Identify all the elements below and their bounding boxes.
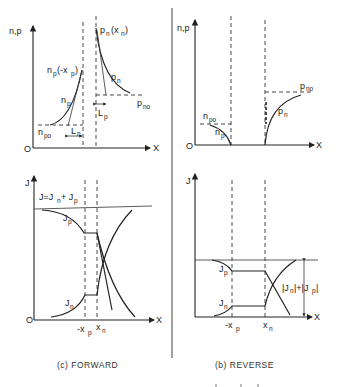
- reverse-current-plot: J X J p J n |J n |+|J p | -x p x n: [186, 174, 320, 333]
- svg-text:n: n: [284, 111, 288, 118]
- svg-text:+ J: + J: [61, 192, 73, 202]
- svg-text:x: x: [96, 322, 101, 332]
- label-npo: n po: [203, 111, 217, 124]
- svg-text:p: p: [100, 25, 105, 35]
- svg-text:n: n: [117, 77, 121, 84]
- label-pn-xn: p n (x n ): [100, 25, 128, 37]
- svg-text:): ): [75, 65, 78, 75]
- Jp-curve: [42, 210, 112, 310]
- y-axis-label: n,p: [177, 23, 190, 33]
- svg-text:-x: -x: [225, 320, 233, 330]
- svg-text:p: p: [88, 329, 92, 337]
- svg-text:n: n: [47, 65, 52, 75]
- svg-text:J: J: [219, 264, 224, 274]
- svg-text:no: no: [306, 85, 314, 92]
- origin-label: O: [26, 315, 33, 325]
- svg-text:p: p: [137, 98, 142, 108]
- svg-text:p: p: [278, 106, 283, 116]
- svg-text:-x: -x: [77, 324, 85, 334]
- tick-mxp: -x p: [225, 320, 240, 333]
- reverse-carrier-plot: n,p X O n po n p p no p n: [177, 16, 322, 151]
- svg-text:J=J: J=J: [39, 192, 53, 202]
- svg-text:): ): [125, 25, 128, 35]
- label-pno: p no: [137, 98, 151, 110]
- svg-text:(-x: (-x: [57, 65, 68, 75]
- forward-current-plot: J X O J=J n + J p J p J n -x p: [25, 176, 162, 337]
- svg-text:n: n: [106, 30, 110, 37]
- svg-text:p: p: [236, 325, 240, 333]
- svg-text:J: J: [63, 213, 68, 223]
- x-axis-label: X: [314, 312, 320, 322]
- svg-text:|: |: [316, 283, 318, 293]
- svg-text:po: po: [44, 132, 52, 140]
- svg-text:po: po: [209, 116, 217, 124]
- svg-text:n: n: [203, 111, 208, 121]
- svg-text:x: x: [263, 320, 268, 330]
- total-current-line: [34, 206, 152, 209]
- x-axis-label: X: [156, 315, 162, 325]
- label-pno: p no: [300, 81, 314, 92]
- svg-text:n: n: [70, 303, 74, 310]
- label-np: n p: [61, 95, 71, 108]
- svg-text:J: J: [219, 298, 224, 308]
- svg-text:|J: |J: [282, 283, 289, 293]
- svg-text:|+|J: |+|J: [294, 283, 308, 293]
- svg-text:p: p: [111, 72, 116, 82]
- y-axis-label: J: [186, 176, 191, 186]
- svg-text:p: p: [74, 197, 78, 205]
- svg-text:p: p: [68, 218, 72, 226]
- label-np-mxp: n p (-x p ): [47, 65, 78, 78]
- svg-text:n: n: [224, 303, 228, 310]
- pn-junction-diagram: n,p X O p n (x n ) n p (-x p ): [0, 0, 337, 387]
- Jn-curve: [51, 210, 132, 317]
- svg-text:p: p: [224, 269, 228, 277]
- svg-text:n: n: [38, 127, 43, 137]
- label-Jp: J p: [63, 213, 72, 226]
- tick-mxp: -x p: [77, 324, 92, 337]
- label-Jn: J n: [65, 298, 74, 310]
- y-axis-label: J: [25, 178, 30, 188]
- origin-label: O: [186, 141, 193, 151]
- label-pn: p n: [111, 72, 121, 84]
- svg-text:L: L: [98, 108, 103, 118]
- tick-xn: x n: [96, 322, 106, 334]
- pn-curve: [265, 95, 301, 145]
- label-pn: p n: [278, 106, 288, 118]
- svg-text:p: p: [221, 132, 225, 140]
- x-axis-label: X: [316, 140, 322, 150]
- svg-text:n: n: [102, 327, 106, 334]
- svg-text:n: n: [269, 325, 273, 332]
- svg-text:(x: (x: [111, 25, 119, 35]
- x-axis-label: X: [153, 143, 159, 153]
- caption-reverse: (b) REVERSE: [215, 360, 274, 370]
- svg-text:p: p: [300, 81, 305, 91]
- label-Lp: L p: [98, 108, 108, 121]
- svg-text:p: p: [67, 100, 71, 108]
- label-Ln: L n: [71, 126, 81, 137]
- svg-text:no: no: [143, 103, 151, 110]
- label-npo: n po: [38, 127, 52, 140]
- forward-carrier-plot: n,p X O p n (x n ) n p (-x p ): [9, 16, 159, 154]
- label-Jn: J n: [219, 298, 228, 310]
- svg-text:n: n: [77, 130, 81, 137]
- svg-text:p: p: [104, 113, 108, 121]
- caption-forward: (c) FORWARD: [57, 360, 118, 370]
- label-np: n p: [215, 127, 225, 140]
- y-axis-label: n,p: [9, 26, 22, 36]
- svg-text:n: n: [215, 127, 220, 137]
- svg-text:n: n: [61, 95, 66, 105]
- Jp-decay-n-side: [97, 233, 135, 317]
- origin-label: O: [24, 144, 31, 154]
- label-total-current: J=J n + J p: [39, 192, 78, 205]
- label-total-magnitude: |J n |+|J p |: [282, 283, 318, 295]
- svg-text:J: J: [65, 298, 70, 308]
- pn-tangent: [97, 30, 106, 95]
- svg-text:L: L: [71, 126, 76, 136]
- tick-xn: x n: [263, 320, 273, 332]
- np-tangent: [68, 70, 82, 126]
